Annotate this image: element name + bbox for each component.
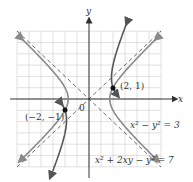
- y-axis-label: y: [85, 6, 92, 16]
- point-label-2-1: (2, 1): [120, 81, 144, 91]
- point-2-1: [111, 86, 116, 91]
- x-axis-label: x: [178, 94, 183, 104]
- equation-label-hyperbola-2: x² + 2xy − y² = 7: [95, 155, 174, 165]
- point-label-neg2-neg1: (−2, −1): [25, 112, 64, 122]
- equation-label-hyperbola-1: x² − y² = 3: [130, 120, 180, 130]
- coordinate-diagram: x y 0 (2, 1) (−2, −1) x² − y² = 3 x² + 2…: [0, 0, 193, 182]
- origin-label: 0: [79, 103, 85, 113]
